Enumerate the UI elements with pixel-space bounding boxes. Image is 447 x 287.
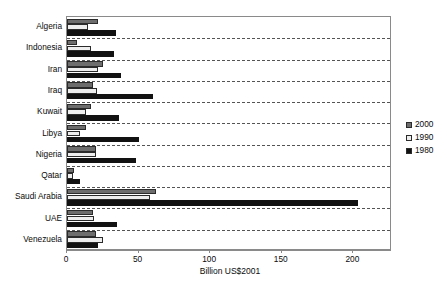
x-tick-label-200: 200 [345, 254, 359, 264]
bar-1990-venezuela [67, 237, 103, 242]
bar-2000-iran [67, 61, 103, 66]
bar-1990-nigeria [67, 152, 96, 157]
legend: 200019901980 [406, 118, 447, 157]
y-axis-label-algeria: Algeria [0, 21, 62, 31]
x-axis-line [66, 250, 391, 251]
bar-group [67, 166, 390, 187]
legend-item-1990[interactable]: 1990 [406, 131, 447, 144]
x-tick-label-0: 0 [64, 254, 69, 264]
y-axis-label-kuwait: Kuwait [0, 106, 62, 116]
bar-1990-kuwait [67, 109, 86, 114]
y-axis-label-iran: Iran [0, 64, 62, 74]
bar-1980-algeria [67, 30, 116, 35]
y-axis-label-nigeria: Nigeria [0, 149, 62, 159]
legend-swatch-icon-1990 [406, 135, 412, 141]
bar-2000-nigeria [67, 146, 96, 151]
bar-1980-nigeria [67, 158, 136, 163]
legend-swatch-icon-2000 [406, 122, 412, 128]
x-tick-0 [66, 250, 67, 253]
bar-1990-uae [67, 216, 94, 221]
bar-1990-qatar [67, 173, 73, 178]
bar-1990-indonesia [67, 46, 91, 51]
y-axis-label-libya: Libya [0, 128, 62, 138]
legend-label-1990: 1990 [415, 131, 433, 144]
bar-2000-qatar [67, 168, 74, 173]
plot-area [66, 16, 391, 250]
legend-item-1980[interactable]: 1980 [406, 144, 447, 157]
x-tick-label-50: 50 [133, 254, 142, 264]
x-axis-title: Billion US$2001 [130, 266, 330, 276]
bar-1990-iraq [67, 88, 97, 93]
bar-1980-libya [67, 137, 139, 142]
x-tick-200 [352, 250, 353, 253]
bar-chart: AlgeriaIndonesiaIranIraqKuwaitLibyaNiger… [0, 0, 447, 287]
y-axis-label-uae: UAE [0, 213, 62, 223]
bar-1990-saudi-arabia [67, 195, 150, 200]
legend-swatch-icon-1980 [406, 148, 412, 154]
bar-2000-saudi-arabia [67, 189, 156, 194]
y-axis-label-saudi-arabia: Saudi Arabia [0, 191, 62, 201]
y-axis-category-labels: AlgeriaIndonesiaIranIraqKuwaitLibyaNiger… [0, 16, 62, 250]
bar-1980-venezuela [67, 243, 98, 248]
bar-group [67, 81, 390, 102]
x-tick-label-150: 150 [274, 254, 288, 264]
bar-group [67, 60, 390, 81]
bar-2000-iraq [67, 82, 93, 87]
bar-1990-algeria [67, 24, 88, 29]
bar-2000-venezuela [67, 231, 96, 236]
bar-group [67, 187, 390, 208]
bar-1980-saudi-arabia [67, 200, 358, 205]
bar-2000-algeria [67, 19, 98, 24]
y-axis-label-indonesia: Indonesia [0, 42, 62, 52]
bar-group [67, 145, 390, 166]
bar-1980-iran [67, 73, 121, 78]
bar-group [67, 17, 390, 38]
legend-item-2000[interactable]: 2000 [406, 118, 447, 131]
bar-2000-libya [67, 125, 86, 130]
bar-group [67, 208, 390, 229]
x-tick-150 [281, 250, 282, 253]
bar-group [67, 123, 390, 144]
x-tick-50 [138, 250, 139, 253]
bar-1990-libya [67, 131, 80, 136]
x-tick-label-100: 100 [202, 254, 216, 264]
bar-2000-kuwait [67, 104, 91, 109]
x-tick-100 [209, 250, 210, 253]
legend-label-2000: 2000 [415, 118, 433, 131]
bar-2000-indonesia [67, 40, 77, 45]
bar-1980-qatar [67, 179, 80, 184]
y-axis-label-iraq: Iraq [0, 85, 62, 95]
bar-1980-uae [67, 222, 117, 227]
bar-1980-kuwait [67, 115, 119, 120]
bar-2000-uae [67, 210, 93, 215]
bar-1980-iraq [67, 94, 153, 99]
bar-1990-iran [67, 67, 98, 72]
plot-inner [67, 17, 390, 249]
bar-1980-indonesia [67, 51, 114, 56]
bar-group [67, 38, 390, 59]
bar-group [67, 230, 390, 251]
y-axis-label-qatar: Qatar [0, 170, 62, 180]
bar-group [67, 102, 390, 123]
y-axis-label-venezuela: Venezuela [0, 234, 62, 244]
legend-label-1980: 1980 [415, 144, 433, 157]
